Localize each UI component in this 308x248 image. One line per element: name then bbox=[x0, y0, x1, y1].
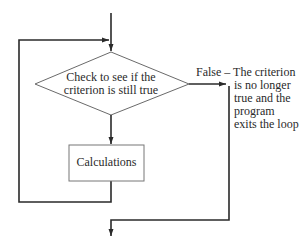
flowchart-canvas: Check to see if the criterion is still t… bbox=[0, 0, 308, 248]
decision-label-line-2: criterion is still true bbox=[55, 84, 167, 97]
calculations-label: Calculations bbox=[69, 156, 144, 169]
decision-label: Check to see if the criterion is still t… bbox=[55, 71, 167, 97]
false-branch-label-line-4: exits the loop bbox=[234, 118, 299, 131]
false-branch-label-body: is no longer true and the program exits … bbox=[234, 79, 299, 131]
